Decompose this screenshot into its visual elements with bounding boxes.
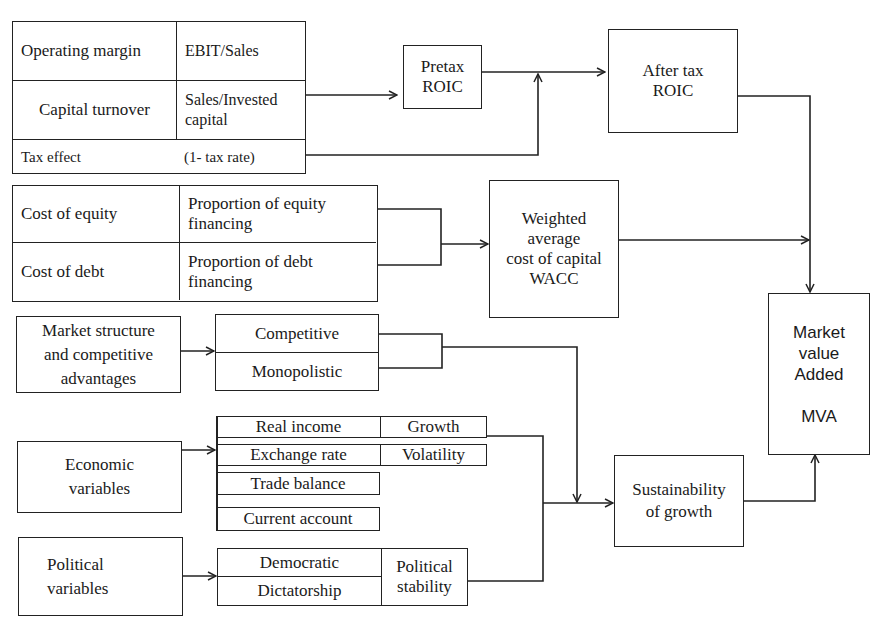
exchange-rate-label: Exchange rate xyxy=(217,445,380,465)
trade-balance-row: Trade balance xyxy=(216,472,380,495)
political-types-box: Democratic Dictatorship Political stabil… xyxy=(217,548,468,606)
debt-proportion-value: Proportion of debt financing xyxy=(179,242,376,300)
ebit-sales-value: EBIT/Sales xyxy=(176,22,305,80)
market-structure-label: Market structure and competitive advanta… xyxy=(17,317,180,392)
mva-label: Market value Added MVA xyxy=(769,294,869,454)
exchange-rate-row: Exchange rate Volatility xyxy=(216,444,487,466)
sales-invested-capital-value: Sales/Invested capital xyxy=(176,80,305,139)
economic-variables-box: Economic variables xyxy=(17,441,182,513)
profitability-table: Operating margin EBIT/Sales Capital turn… xyxy=(12,21,306,174)
tax-rate-value: (1- tax rate) xyxy=(176,139,305,173)
pretax-roic-box: Pretax ROIC xyxy=(403,45,482,109)
competitive-label: Competitive xyxy=(216,315,378,352)
financing-table: Cost of equity Proportion of equity fina… xyxy=(12,185,378,302)
pretax-roic-label: Pretax ROIC xyxy=(404,46,481,108)
tax-effect-label: Tax effect xyxy=(13,139,176,173)
trade-balance-label: Trade balance xyxy=(217,473,379,494)
sustainability-box: Sustainability of growth xyxy=(614,455,744,547)
political-variables-box: Political variables xyxy=(18,537,183,616)
real-income-label: Real income xyxy=(217,417,380,437)
equity-proportion-value: Proportion of equity financing xyxy=(179,186,376,242)
wacc-box: Weighted average cost of capital WACC xyxy=(489,180,619,318)
economic-items-left-rail xyxy=(216,416,218,531)
political-stability-label: Political stability xyxy=(381,549,467,605)
operating-margin-label: Operating margin xyxy=(13,22,176,80)
after-tax-roic-label: After tax ROIC xyxy=(609,30,737,132)
current-account-row: Current account xyxy=(216,507,380,531)
economic-variables-label: Economic variables xyxy=(18,442,181,512)
mva-box: Market value Added MVA xyxy=(768,293,870,455)
monopolistic-label: Monopolistic xyxy=(216,352,378,390)
cost-of-debt-label: Cost of debt xyxy=(13,242,179,300)
dictatorship-label: Dictatorship xyxy=(218,576,381,605)
capital-turnover-label: Capital turnover xyxy=(13,80,176,139)
democratic-label: Democratic xyxy=(218,549,381,576)
real-income-row: Real income Growth xyxy=(216,416,487,438)
after-tax-roic-box: After tax ROIC xyxy=(608,29,738,133)
cost-of-equity-label: Cost of equity xyxy=(13,186,179,242)
current-account-label: Current account xyxy=(217,508,379,530)
political-variables-label: Political variables xyxy=(19,538,182,615)
wacc-label: Weighted average cost of capital WACC xyxy=(490,181,618,317)
growth-label: Growth xyxy=(380,417,486,437)
market-structure-box: Market structure and competitive advanta… xyxy=(16,316,181,393)
market-types-box: Competitive Monopolistic xyxy=(215,314,379,391)
sustainability-label: Sustainability of growth xyxy=(615,456,743,546)
volatility-label: Volatility xyxy=(380,445,486,465)
